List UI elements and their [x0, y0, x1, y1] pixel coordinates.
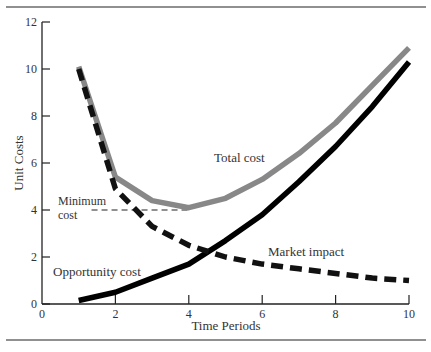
y-tick-label: 0 [31, 297, 37, 311]
x-tick-label: 10 [403, 307, 415, 321]
x-axis-label: Time Periods [191, 318, 260, 333]
series-group [79, 48, 409, 301]
x-tick-label: 0 [39, 307, 45, 321]
y-tick-label: 8 [31, 109, 37, 123]
series-total-cost [79, 48, 409, 208]
x-tick-label: 2 [112, 307, 118, 321]
y-tick-label: 2 [31, 250, 37, 264]
y-tick-label: 10 [25, 62, 37, 76]
y-axis-label: Unit Costs [11, 135, 26, 190]
label-market-impact: Market impact [268, 244, 345, 259]
label-minimum-2: cost [58, 208, 78, 222]
label-total-cost: Total cost [214, 150, 265, 165]
y-tick-label: 12 [25, 15, 37, 29]
label-opportunity-cost: Opportunity cost [53, 264, 141, 279]
y-tick-label: 4 [31, 203, 37, 217]
y-tick-label: 6 [31, 156, 37, 170]
x-tick-label: 8 [333, 307, 339, 321]
label-minimum-1: Minimum [58, 194, 107, 208]
line-chart: 0246810120246810 Total cost Market impac… [0, 0, 431, 352]
